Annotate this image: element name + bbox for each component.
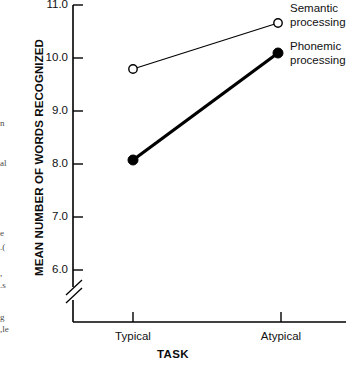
series-line-phonemic — [133, 53, 278, 160]
plot-area — [0, 0, 346, 368]
axis-break-slash — [66, 280, 82, 295]
data-point-phonemic-atypical — [273, 48, 283, 58]
chart-figure: n al e ). , s. g le, MEAN NUMBER OF WORD… — [0, 0, 346, 368]
data-point-semantic-typical — [129, 65, 137, 73]
data-point-phonemic-typical — [128, 155, 138, 165]
axis-break-slash — [66, 288, 82, 303]
data-point-semantic-atypical — [274, 19, 282, 27]
series-line-semantic — [133, 23, 278, 69]
